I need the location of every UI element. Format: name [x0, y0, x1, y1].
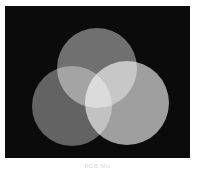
venn-diagram-canvas — [5, 6, 190, 158]
figure-caption: RGB Mix — [5, 161, 190, 171]
figure-root: RGB Mix — [0, 0, 204, 174]
image-panel — [5, 6, 190, 158]
circle-lower-right — [85, 61, 169, 145]
